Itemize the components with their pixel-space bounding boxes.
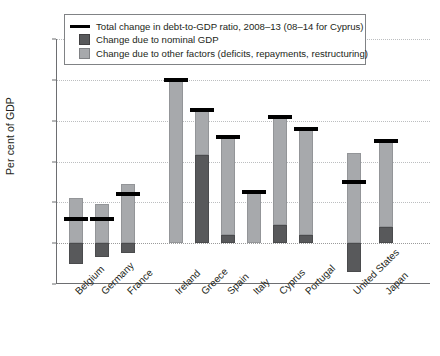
bar-segment-nominal-gdp-greece <box>195 155 209 243</box>
bar-series-group <box>57 39 430 283</box>
bar-segment-other-factors-united-states <box>347 153 361 243</box>
total-change-marker-germany <box>90 217 114 221</box>
total-change-marker-united-states <box>342 180 366 184</box>
bar-segment-other-factors-japan <box>379 141 393 227</box>
bar-segment-other-factors-cyprus <box>273 117 287 225</box>
dark-square-swatch-icon <box>79 34 90 45</box>
total-change-marker-italy <box>242 190 266 194</box>
bar-segment-nominal-gdp-portugal <box>299 235 313 243</box>
legend-item-total: Total change in debt-to-GDP ratio, 2008–… <box>70 20 359 33</box>
bar-segment-other-factors-germany <box>95 204 109 243</box>
bar-segment-other-factors-belgium <box>69 198 83 243</box>
bar-segment-nominal-gdp-germany <box>95 243 109 257</box>
total-change-marker-cyprus <box>268 115 292 119</box>
bar-segment-other-factors-italy <box>247 192 261 243</box>
bar-segment-other-factors-spain <box>221 137 235 235</box>
bar-segment-other-factors-greece <box>195 110 209 155</box>
chart-container: Per cent of GDP 100806040200–20 BelgiumG… <box>0 0 440 356</box>
total-change-marker-portugal <box>294 127 318 131</box>
total-change-marker-spain <box>216 135 240 139</box>
legend-item-nominal-gdp: Change due to nominal GDP <box>79 33 359 46</box>
line-swatch-icon <box>70 25 90 28</box>
bar-segment-nominal-gdp-belgium <box>69 243 83 263</box>
y-axis-title: Per cent of GDP <box>4 97 16 175</box>
total-change-marker-belgium <box>64 217 88 221</box>
bar-segment-nominal-gdp-spain <box>221 235 235 243</box>
total-change-marker-ireland <box>164 78 188 82</box>
legend-item-other-factors: Change due to other factors (deficits, r… <box>79 47 359 60</box>
bar-segment-nominal-gdp-japan <box>379 227 393 243</box>
plot-area <box>56 39 430 284</box>
total-change-marker-france <box>116 192 140 196</box>
legend-label-total: Total change in debt-to-GDP ratio, 2008–… <box>96 21 364 32</box>
legend-label-nominal-gdp: Change due to nominal GDP <box>96 34 219 45</box>
total-change-marker-japan <box>374 139 398 143</box>
bar-segment-nominal-gdp-united-states <box>347 243 361 272</box>
legend-label-other-factors: Change due to other factors (deficits, r… <box>96 48 368 59</box>
bar-segment-nominal-gdp-france <box>121 243 135 253</box>
chart-legend: Total change in debt-to-GDP ratio, 2008–… <box>64 14 366 65</box>
bar-segment-nominal-gdp-cyprus <box>273 225 287 243</box>
bar-segment-other-factors-portugal <box>299 129 313 235</box>
bar-segment-other-factors-ireland <box>169 80 183 243</box>
total-change-marker-greece <box>190 108 214 112</box>
light-square-swatch-icon <box>79 48 90 59</box>
